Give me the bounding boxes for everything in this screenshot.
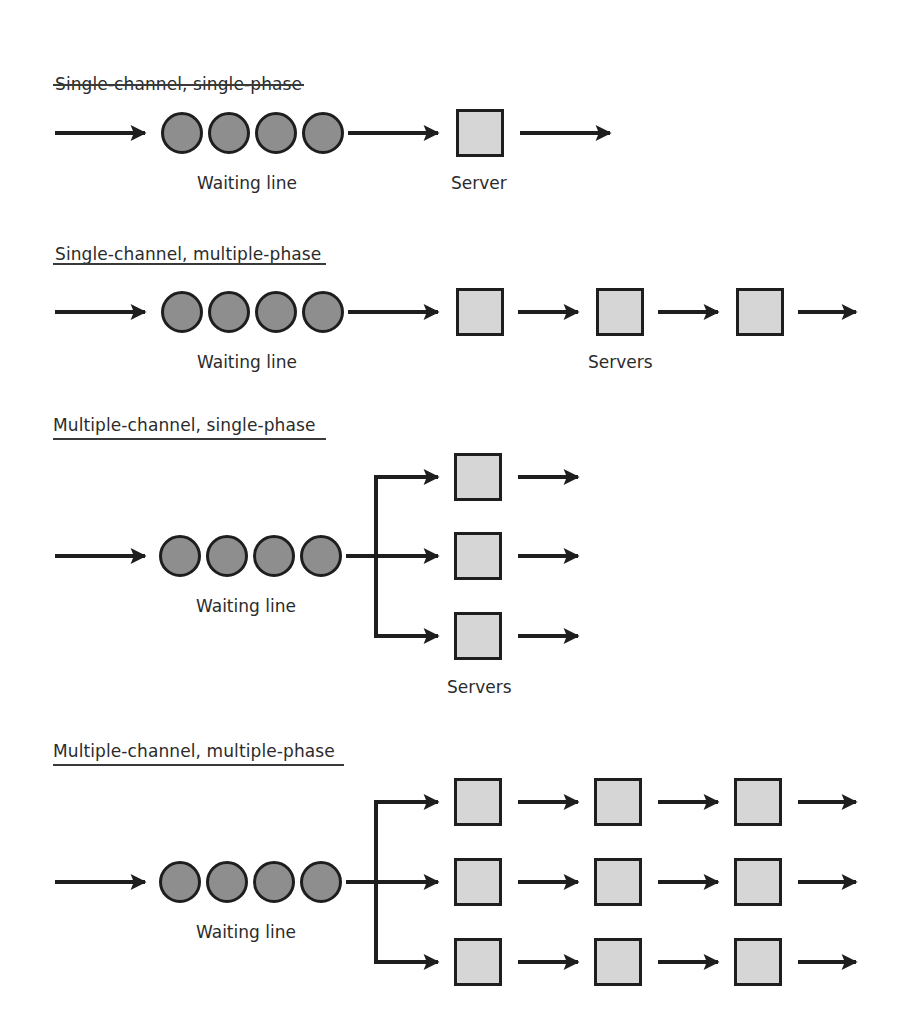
server-box (454, 532, 502, 580)
customer-circle (302, 291, 344, 333)
section-title: Multiple-channel, single-phase (53, 415, 316, 435)
server-box (596, 288, 644, 336)
server-box (734, 778, 782, 826)
waiting-line-label: Waiting line (196, 922, 296, 942)
server-box (734, 858, 782, 906)
customer-circle (208, 112, 250, 154)
title-underline (53, 263, 326, 265)
server-box (594, 938, 642, 986)
title-underline (53, 84, 304, 86)
customer-circle (255, 112, 297, 154)
servers-label: Servers (588, 352, 653, 372)
waiting-line-label: Waiting line (197, 352, 297, 372)
section-title: Single-channel, multiple-phase (55, 244, 321, 264)
customer-circle (159, 535, 201, 577)
customer-circle (161, 112, 203, 154)
servers-label: Servers (447, 677, 512, 697)
server-box (594, 778, 642, 826)
server-box (454, 938, 502, 986)
waiting-line-label: Waiting line (196, 596, 296, 616)
server-label: Server (451, 173, 507, 193)
server-box (734, 938, 782, 986)
server-box (456, 288, 504, 336)
customer-circle (300, 861, 342, 903)
customer-circle (302, 112, 344, 154)
customer-circle (255, 291, 297, 333)
customer-circle (206, 535, 248, 577)
title-underline (53, 764, 344, 766)
server-box (454, 778, 502, 826)
server-box (454, 858, 502, 906)
title-underline (53, 438, 326, 440)
server-box (594, 858, 642, 906)
customer-circle (208, 291, 250, 333)
customer-circle (300, 535, 342, 577)
customer-circle (253, 535, 295, 577)
server-box (454, 453, 502, 501)
customer-circle (161, 291, 203, 333)
server-box (456, 109, 504, 157)
waiting-line-label: Waiting line (197, 173, 297, 193)
server-box (454, 612, 502, 660)
section-title: Multiple-channel, multiple-phase (53, 741, 335, 761)
customer-circle (206, 861, 248, 903)
customer-circle (253, 861, 295, 903)
customer-circle (159, 861, 201, 903)
server-box (736, 288, 784, 336)
